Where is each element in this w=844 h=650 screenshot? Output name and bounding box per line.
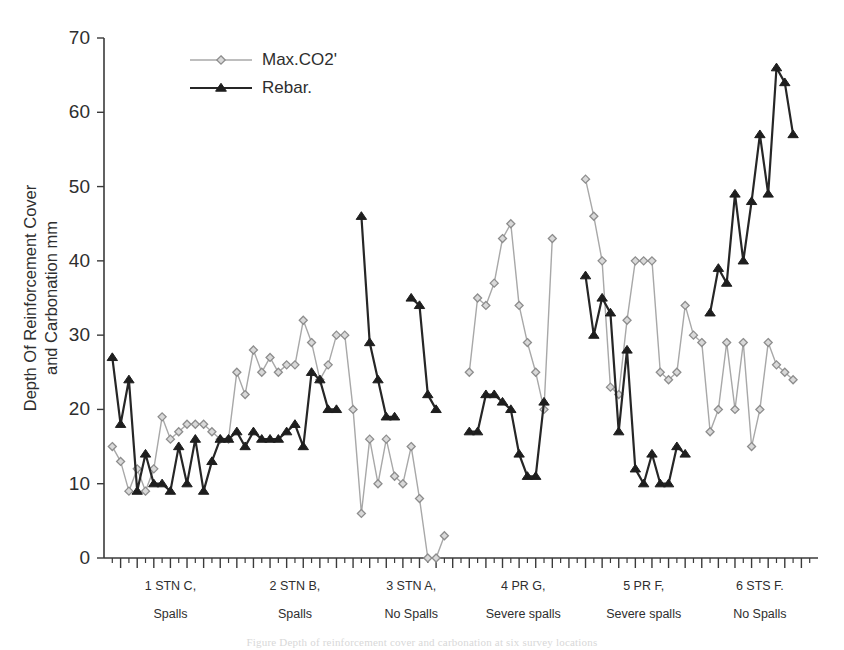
x-group-label-primary: 2 STN B, <box>270 579 321 593</box>
y-tick-label: 50 <box>69 176 90 197</box>
y-tick-label: 20 <box>69 398 90 419</box>
data-point-marker-triangle <box>182 479 192 487</box>
chart-legend: Max.CO2'Rebar. <box>190 50 337 97</box>
data-point-marker-diamond <box>532 368 540 376</box>
data-point-marker-triangle <box>721 279 731 287</box>
chart-figure: 010203040506070 Max.CO2'Rebar. Depth Of … <box>0 0 844 650</box>
x-group-label-secondary: Severe spalls <box>486 607 561 621</box>
data-point-marker-diamond <box>117 457 125 465</box>
data-point-marker-triangle <box>746 197 756 205</box>
data-point-marker-diamond <box>249 346 257 354</box>
data-point-marker-diamond <box>415 495 423 503</box>
data-point-marker-triangle <box>132 487 142 495</box>
data-point-marker-diamond <box>382 435 390 443</box>
series-rebar-path <box>710 68 793 313</box>
data-point-marker-triangle <box>614 427 624 435</box>
series-rebar-path <box>469 395 544 477</box>
data-point-marker-diamond <box>748 443 756 451</box>
x-axis <box>104 558 818 568</box>
y-axis-title-line-2: and Carbonation mm <box>42 221 60 375</box>
data-point-marker-triangle <box>174 442 184 450</box>
data-point-marker-triangle <box>373 375 383 383</box>
data-point-marker-diamond <box>366 435 374 443</box>
x-group-label-secondary: Spalls <box>278 607 312 621</box>
data-point-marker-triangle <box>248 427 258 435</box>
data-point-marker-triangle <box>755 130 765 138</box>
data-point-marker-diamond <box>357 509 365 517</box>
data-point-marker-diamond <box>598 257 606 265</box>
data-point-marker-diamond <box>233 368 241 376</box>
data-point-marker-diamond <box>465 368 473 376</box>
x-group-label-secondary: Spalls <box>153 607 187 621</box>
data-point-marker-diamond <box>499 235 507 243</box>
series-rebar-path <box>112 357 336 491</box>
data-point-marker-triangle <box>298 442 308 450</box>
data-point-marker-triangle <box>240 442 250 450</box>
figure-caption: Figure Depth of reinforcement cover and … <box>0 636 844 648</box>
data-point-marker-triangle <box>638 479 648 487</box>
data-point-marker-diamond <box>523 339 531 347</box>
data-point-marker-diamond <box>714 405 722 413</box>
data-point-marker-diamond <box>515 301 523 309</box>
data-point-marker-diamond <box>266 353 274 361</box>
x-group-label-secondary: Severe spalls <box>606 607 681 621</box>
x-group-label-primary: 6 STS F. <box>736 579 784 593</box>
data-point-marker-triangle <box>738 256 748 264</box>
x-group-label-primary: 4 PR G, <box>501 579 545 593</box>
data-point-marker-diamond <box>623 316 631 324</box>
data-point-marker-triangle <box>306 368 316 376</box>
x-group-label-secondary: No Spalls <box>733 607 787 621</box>
data-point-marker-triangle <box>771 63 781 71</box>
y-axis: 010203040506070 <box>69 27 104 568</box>
data-point-marker-diamond <box>490 279 498 287</box>
y-axis-title-line-1: Depth Of Reinforcement Cover <box>21 184 39 411</box>
data-point-marker-triangle <box>124 375 134 383</box>
data-point-marker-diamond <box>706 428 714 436</box>
data-point-marker-diamond <box>507 220 515 228</box>
chart-series-area <box>107 63 798 562</box>
data-point-marker-triangle <box>115 420 125 428</box>
data-point-marker-triangle <box>290 420 300 428</box>
data-point-marker-diamond <box>332 331 340 339</box>
data-point-marker-diamond <box>291 361 299 369</box>
data-point-marker-triangle <box>190 435 200 443</box>
data-point-marker-triangle <box>364 338 374 346</box>
data-point-marker-triangle <box>597 293 607 301</box>
data-point-marker-diamond <box>739 339 747 347</box>
series-max-co2-path <box>469 224 552 410</box>
data-point-marker-diamond <box>681 301 689 309</box>
data-point-marker-triangle <box>763 189 773 197</box>
data-point-marker-triangle <box>198 487 208 495</box>
data-point-marker-diamond <box>440 532 448 540</box>
x-group-label-primary: 1 STN C, <box>145 579 196 593</box>
data-point-marker-diamond <box>299 316 307 324</box>
y-tick-label: 70 <box>69 27 90 48</box>
legend-label: Max.CO2' <box>262 50 337 69</box>
x-group-label-secondary: No Spalls <box>384 607 438 621</box>
data-point-marker-triangle <box>730 189 740 197</box>
data-point-marker-diamond <box>756 405 764 413</box>
series-rebar-path <box>361 216 394 417</box>
data-point-marker-triangle <box>713 264 723 272</box>
data-point-marker-triangle <box>539 397 549 405</box>
data-point-marker-triangle <box>207 457 217 465</box>
data-point-marker-diamond <box>631 257 639 265</box>
data-point-marker-diamond <box>582 175 590 183</box>
data-point-marker-diamond <box>424 554 432 562</box>
data-point-marker-diamond <box>191 420 199 428</box>
legend-item-rebar: Rebar. <box>190 78 312 97</box>
data-point-marker-diamond <box>407 443 415 451</box>
data-point-marker-diamond <box>548 235 556 243</box>
data-point-marker-triangle <box>647 449 657 457</box>
data-point-marker-triangle <box>580 271 590 279</box>
data-point-marker-diamond <box>723 339 731 347</box>
data-point-marker-diamond <box>108 443 116 451</box>
legend-marker-diamond-icon <box>217 56 225 64</box>
x-group-label-primary: 3 STN A, <box>386 579 436 593</box>
data-point-marker-triangle <box>406 293 416 301</box>
data-point-marker-diamond <box>731 405 739 413</box>
data-point-marker-triangle <box>589 331 599 339</box>
data-point-marker-diamond <box>349 405 357 413</box>
y-tick-label: 40 <box>69 250 90 271</box>
data-point-marker-triangle <box>630 464 640 472</box>
